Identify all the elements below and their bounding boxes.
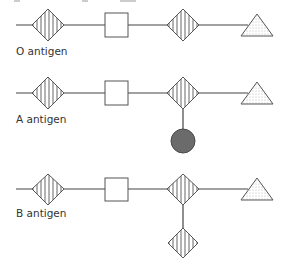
row-b-antigen: B antigen: [16, 174, 273, 258]
white-square-icon: [105, 81, 128, 105]
cropped-caption-remnant: [14, 0, 136, 2]
striped-diamond-icon: [168, 228, 198, 258]
row-a-antigen: A antigen: [16, 77, 273, 153]
striped-diamond-icon: [167, 174, 199, 205]
o-antigen-label: O antigen: [16, 45, 68, 57]
striped-diamond-icon: [32, 9, 64, 41]
striped-diamond-icon: [167, 77, 199, 109]
abo-antigen-diagram: O antigen A antigen B antigen: [0, 0, 288, 262]
a-antigen-label: A antigen: [16, 113, 66, 125]
striped-diamond-icon: [32, 77, 64, 109]
striped-diamond-icon: [167, 9, 199, 41]
white-square-icon: [105, 13, 128, 37]
row-o-antigen: O antigen: [16, 9, 273, 57]
b-antigen-label: B antigen: [16, 207, 66, 219]
striped-diamond-icon: [32, 174, 64, 205]
gray-circle-icon: [171, 129, 195, 153]
white-square-icon: [105, 178, 128, 201]
